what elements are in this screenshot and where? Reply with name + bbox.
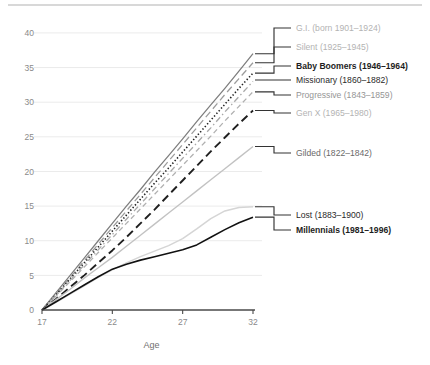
legend-label-3[interactable]: Missionary (1860–1882) [296, 75, 388, 85]
y-axis-tick-labels: 0510152025303540 [25, 28, 35, 315]
y-tick-label: 15 [25, 201, 35, 211]
series-line-2 [42, 73, 253, 310]
line-chart-svg: 0510152025303540 17222732 Age [0, 0, 430, 365]
series-line-1 [42, 63, 253, 310]
series-line-4 [42, 92, 253, 310]
legend-label-1[interactable]: Silent (1925–1945) [296, 42, 369, 52]
series-line-0 [42, 54, 253, 310]
x-axis-title: Age [143, 340, 159, 350]
gridlines-group [34, 33, 262, 275]
chart-container: 0510152025303540 17222732 Age G.I. (born… [0, 0, 430, 365]
legend-label-8[interactable]: Millennials (1981–1996) [296, 225, 391, 235]
series-line-5 [42, 111, 253, 310]
y-tick-label: 20 [25, 167, 35, 177]
leader-line-0 [255, 28, 291, 54]
y-tick-label: 30 [25, 97, 35, 107]
y-tick-label: 25 [25, 132, 35, 142]
leader-line-4 [255, 92, 291, 95]
x-tick-label: 27 [178, 317, 188, 327]
y-tick-label: 10 [25, 236, 35, 246]
legend-label-7[interactable]: Lost (1883–1900) [296, 210, 363, 220]
legend-leader-lines [255, 28, 291, 230]
y-tick-label: 40 [25, 28, 35, 38]
x-tick-label: 32 [248, 317, 258, 327]
legend-label-0[interactable]: G.I. (born 1901–1924) [296, 23, 381, 33]
legend-label-5[interactable]: Gen X (1965–1980) [296, 108, 372, 118]
legend-label-2[interactable]: Baby Boomers (1946–1964) [296, 61, 408, 71]
leader-line-1 [255, 47, 291, 63]
series-line-8 [42, 217, 253, 310]
x-tick-label: 22 [108, 317, 118, 327]
series-lines-group [42, 54, 253, 310]
leader-line-6 [255, 147, 291, 153]
leader-line-7 [255, 207, 291, 215]
x-tick-label: 17 [37, 317, 47, 327]
y-tick-label: 35 [25, 63, 35, 73]
y-tick-label: 5 [29, 271, 34, 281]
x-axis-tick-labels: 17222732 [37, 317, 258, 327]
legend-label-6[interactable]: Gilded (1822–1842) [296, 148, 372, 158]
y-tick-label: 0 [29, 305, 34, 315]
axis-lines-group [42, 310, 255, 314]
leader-line-5 [255, 111, 291, 113]
legend-label-4[interactable]: Progressive (1843–1859) [296, 90, 393, 100]
leader-line-8 [255, 217, 291, 230]
